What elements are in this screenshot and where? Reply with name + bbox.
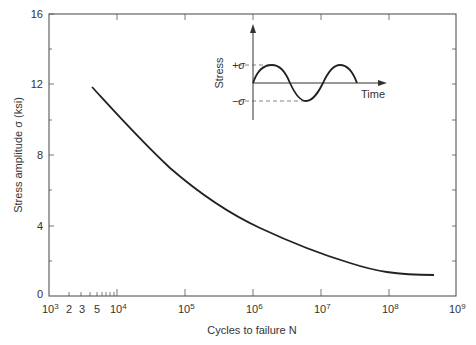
x-tick-label: 109: [449, 302, 466, 315]
x-tick-label: 104: [110, 302, 127, 315]
y-tick-label: 4: [37, 220, 43, 232]
x-ticks: [69, 14, 389, 296]
x-tick-label: 107: [314, 302, 331, 315]
y-tick-label: 16: [31, 8, 43, 20]
minus-sigma-label: −σ: [232, 95, 245, 107]
x-tick-labels: 103 104 105 106 107 108 109 2 3 5: [42, 302, 466, 315]
y-tick-label: 8: [37, 149, 43, 161]
inset-stress-time-diagram: +σ −σ Stress Time: [213, 24, 387, 120]
x-minor-label: 5: [94, 303, 100, 315]
inset-y-label: Stress: [213, 57, 225, 89]
inset-x-label: Time: [361, 88, 385, 100]
x-minor-label: 2: [66, 303, 72, 315]
sn-curve: [92, 87, 434, 275]
x-tick-label: 106: [246, 302, 263, 315]
x-tick-label: 105: [178, 302, 195, 315]
plus-sigma-label: +σ: [232, 59, 245, 71]
y-tick-labels: 16 12 8 4 0: [31, 8, 43, 300]
inset-y-arrow-icon: [250, 24, 256, 33]
x-tick-label: 103: [42, 302, 59, 315]
x-tick-label: 108: [382, 302, 399, 315]
y-tick-label: 0: [37, 288, 43, 300]
x-axis-label: Cycles to failure N: [207, 324, 296, 336]
inset-x-arrow-icon: [378, 80, 387, 86]
y-tick-label: 12: [31, 78, 43, 90]
x-minor-label: 3: [79, 303, 85, 315]
y-axis-label: Stress amplitude σ (ksi): [12, 97, 24, 213]
sn-chart: 16 12 8 4 0 103 104 105 106 107 108 109 …: [0, 0, 476, 345]
